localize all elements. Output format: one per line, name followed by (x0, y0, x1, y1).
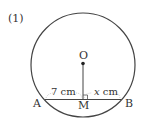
label-a: A (32, 97, 42, 110)
center-point (81, 62, 85, 66)
label-m: M (78, 99, 89, 112)
measure-right: x cm (94, 86, 118, 97)
measure-right-unit: cm (100, 86, 119, 97)
label-b: B (125, 97, 133, 110)
measure-left: 7 cm (51, 86, 76, 97)
circle-chord-diagram: (1) O A B M 7 cm x cm (0, 0, 144, 125)
problem-number: (1) (8, 12, 24, 25)
label-o: O (79, 49, 88, 62)
